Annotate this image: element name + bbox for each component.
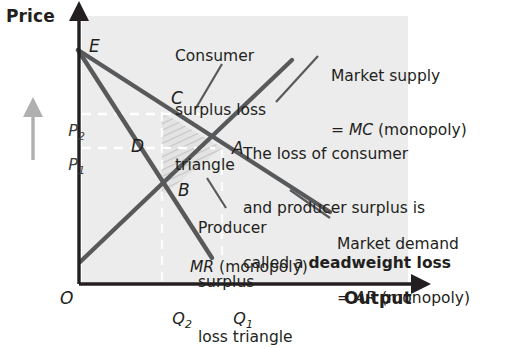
market-supply-line-1: Market supply — [331, 67, 467, 85]
market-demand-line-1: Market demand — [337, 235, 470, 253]
origin-label: O — [60, 288, 73, 308]
consumer-surplus-line-1: Consumer — [175, 47, 266, 65]
price-tick-p1-label: P — [68, 155, 78, 174]
point-label-d: D — [131, 136, 144, 156]
market-demand-ar-term: AR — [355, 289, 376, 307]
market-demand-line-2: = AR (monopoly) — [337, 289, 470, 307]
market-demand-eq-prefix: = — [337, 289, 355, 307]
quantity-tick-q2-sub: 2 — [185, 318, 192, 331]
annotation-marginal-revenue: MR (monopoly) — [190, 258, 308, 276]
quantity-tick-q2-label: Q — [172, 309, 185, 328]
market-demand-eq-suffix: (monopoly) — [376, 289, 470, 307]
y-axis-title: Price — [6, 6, 55, 26]
price-tick-p1: P1 — [48, 137, 85, 197]
producer-surplus-line-3: loss triangle — [198, 328, 293, 346]
price-tick-p1-sub: 1 — [78, 164, 85, 177]
annotation-market-demand: Market demand = AR (monopoly) — [337, 198, 470, 344]
deadweight-line-1: The loss of consumer — [243, 145, 451, 163]
marginal-revenue-suffix: (monopoly) — [214, 258, 308, 276]
point-label-e: E — [89, 36, 100, 56]
quantity-tick-q2: Q2 — [152, 291, 192, 349]
marginal-revenue-term: MR — [190, 258, 214, 276]
producer-surplus-line-1: Producer — [198, 219, 293, 237]
